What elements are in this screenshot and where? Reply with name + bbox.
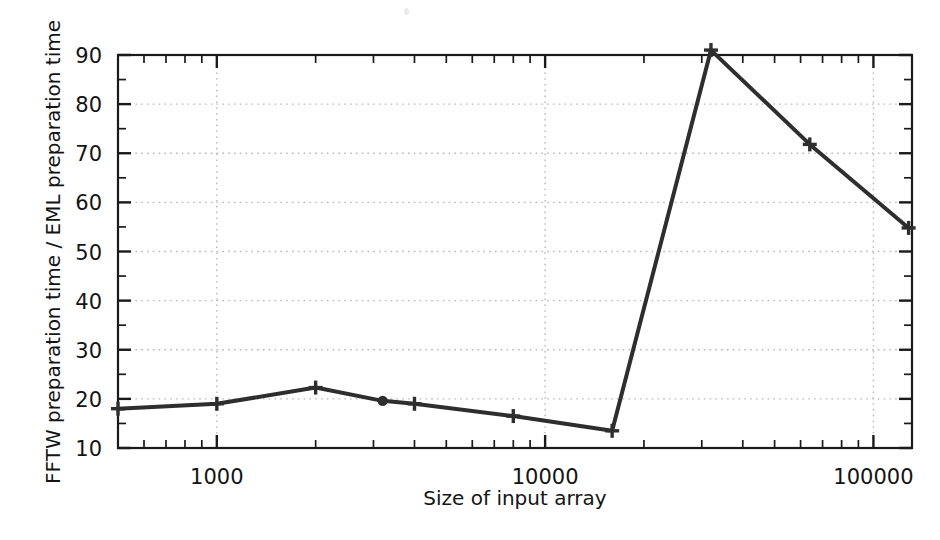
x-tick-label: 1000 xyxy=(190,465,243,489)
y-tick-label: 70 xyxy=(75,142,102,166)
y-tick-label: 10 xyxy=(75,437,102,461)
y-tick-label: 80 xyxy=(75,93,102,117)
chart-figure: 102030405060708090 100010000100000 Size … xyxy=(0,0,940,540)
y-tick-label: 60 xyxy=(75,191,102,215)
line-chart-canvas: 102030405060708090 100010000100000 Size … xyxy=(0,0,940,540)
chart-background xyxy=(0,0,940,540)
y-tick-label: 20 xyxy=(75,388,102,412)
y-tick-label: 40 xyxy=(75,290,102,314)
y-tick-label: 30 xyxy=(75,339,102,363)
x-tick-label: 100000 xyxy=(833,465,913,489)
y-tick-label: 50 xyxy=(75,241,102,265)
y-axis-title: FFTW preparation time / EML preparation … xyxy=(41,20,65,484)
x-axis-title: Size of input array xyxy=(423,486,606,510)
y-axis-tick-labels: 102030405060708090 xyxy=(75,44,102,461)
y-tick-label: 90 xyxy=(75,44,102,68)
